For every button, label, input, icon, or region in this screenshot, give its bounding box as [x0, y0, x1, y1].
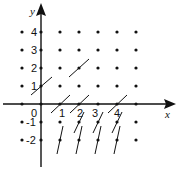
grid-point [20, 120, 23, 123]
x-tick-label: 3 [92, 107, 98, 119]
y-tick-label: 4 [31, 26, 37, 38]
slope-segment [114, 126, 120, 154]
grid-point [134, 120, 137, 123]
x-tick-labels: 1 2 3 4 [59, 107, 120, 119]
grid-point [77, 48, 80, 51]
grid-point [58, 84, 61, 87]
grid-points [20, 30, 137, 141]
y-tick-labels: 4 3 2 1 -1 -2 [26, 26, 37, 146]
grid-point [20, 30, 23, 33]
grid-point [20, 102, 23, 105]
y-axis-label: y [29, 5, 35, 17]
grid-point [20, 48, 23, 51]
grid-point [77, 30, 80, 33]
grid-point [134, 138, 137, 141]
grid-point [115, 30, 118, 33]
y-tick-label: -1 [26, 116, 36, 128]
grid-point [96, 30, 99, 33]
grid-point [39, 138, 42, 141]
x-axis-label: x [164, 108, 170, 120]
grid-point [58, 30, 61, 33]
grid-point [77, 84, 80, 87]
grid-point [39, 66, 42, 69]
grid-point [134, 102, 137, 105]
y-tick-label: 3 [31, 44, 37, 56]
grid-point [134, 84, 137, 87]
y-tick-label: 2 [31, 62, 37, 74]
grid-point [39, 102, 42, 105]
grid-point [96, 84, 99, 87]
x-tick-label: 1 [59, 107, 65, 119]
slope-segment [69, 59, 89, 77]
grid-point [96, 102, 99, 105]
grid-point [134, 48, 137, 51]
y-tick-label: -2 [26, 134, 36, 146]
grid-point [39, 30, 42, 33]
grid-point [96, 48, 99, 51]
grid-point [39, 120, 42, 123]
grid-point [58, 120, 61, 123]
slope-segment [76, 126, 82, 154]
grid-point [39, 48, 42, 51]
x-tick-label: 2 [77, 107, 83, 119]
slope-field-diagram: x y 0 1 2 3 4 4 3 2 1 -1 -2 [0, 0, 186, 171]
slope-segment [57, 126, 63, 154]
grid-point [115, 48, 118, 51]
grid-point [20, 84, 23, 87]
slope-field-canvas: x y 0 1 2 3 4 4 3 2 1 -1 -2 [0, 0, 186, 171]
grid-point [58, 48, 61, 51]
grid-point [115, 66, 118, 69]
grid-point [96, 66, 99, 69]
grid-point [115, 84, 118, 87]
grid-point [20, 66, 23, 69]
grid-point [58, 66, 61, 69]
slope-segment [95, 126, 101, 154]
grid-point [134, 66, 137, 69]
grid-point [134, 30, 137, 33]
grid-point [20, 138, 23, 141]
